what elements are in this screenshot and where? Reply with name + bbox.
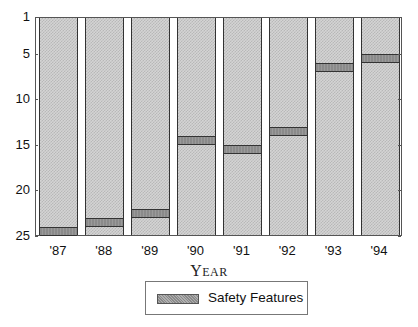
y-tick-mark [35, 99, 38, 100]
y-tick-mark [35, 236, 38, 237]
bar-94 [361, 18, 400, 235]
bar-93 [315, 18, 354, 235]
y-tick-label: 20 [0, 183, 30, 196]
bar-88 [85, 18, 124, 235]
legend: Safety Features [145, 281, 308, 315]
bar-90 [177, 18, 216, 235]
y-tick-mark [398, 99, 401, 100]
safety-features-band [316, 63, 353, 72]
y-tick-mark [35, 17, 38, 18]
x-tick-label: '91 [221, 243, 261, 258]
safety-features-band [224, 145, 261, 154]
plot-area [35, 17, 402, 236]
bar-91 [223, 18, 262, 235]
y-tick-mark [398, 145, 401, 146]
x-tick-label: '90 [176, 243, 216, 258]
y-tick-mark [35, 190, 38, 191]
safety-features-band [86, 218, 123, 227]
safety-features-band [40, 227, 77, 236]
bar-92 [269, 18, 308, 235]
safety-features-band [362, 54, 399, 63]
y-tick-mark [398, 190, 401, 191]
y-tick-mark [398, 17, 401, 18]
x-tick-label: '93 [313, 243, 353, 258]
y-tick-label: 1 [0, 10, 30, 23]
x-tick-label: '89 [130, 243, 170, 258]
x-tick-label: '88 [84, 243, 124, 258]
y-tick-label: 10 [0, 92, 30, 105]
x-tick-label: '94 [359, 243, 399, 258]
y-tick-mark [398, 54, 401, 55]
safety-features-band [132, 209, 169, 218]
legend-label: Safety Features [208, 290, 303, 305]
bar-87 [39, 18, 78, 235]
y-tick-label: 5 [0, 47, 30, 60]
x-axis-label-rest: EAR [202, 265, 228, 279]
x-tick-label: '92 [267, 243, 307, 258]
y-tick-label: 25 [0, 229, 30, 242]
x-axis-label: YEAR [0, 262, 418, 280]
y-tick-label: 15 [0, 138, 30, 151]
legend-swatch-safety-features [157, 294, 199, 304]
y-tick-mark [398, 236, 401, 237]
x-tick-label: '87 [38, 243, 78, 258]
bar-89 [131, 18, 170, 235]
safety-features-band [270, 127, 307, 136]
y-tick-mark [35, 54, 38, 55]
y-tick-mark [35, 145, 38, 146]
safety-features-band [178, 136, 215, 145]
x-axis-label-first: Y [190, 262, 202, 279]
